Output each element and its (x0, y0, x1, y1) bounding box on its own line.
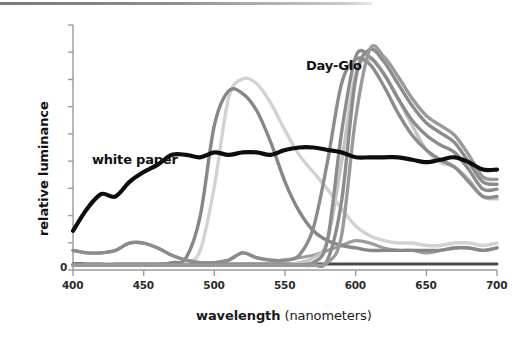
axis-lines (73, 25, 497, 270)
annotation-white-paper: white paper (92, 152, 178, 167)
x-tick-label: 500 (203, 279, 224, 291)
curve-day-glo-green-light (73, 78, 497, 265)
chart-figure: relative luminance 0 Day-Glo white paper… (0, 0, 525, 341)
x-tick-label: 600 (345, 279, 366, 291)
y-axis-ticks (68, 25, 73, 270)
y-axis-zero-label: 0 (60, 261, 67, 273)
x-tick-label: 650 (415, 279, 436, 291)
x-axis-ticks (73, 270, 497, 276)
x-axis-title-unit: (nanometers) (284, 308, 371, 323)
x-axis-title-bold: wavelength (196, 308, 280, 323)
x-tick-label: 550 (274, 279, 295, 291)
annotation-day-glo: Day-Glo (306, 58, 362, 73)
x-tick-label: 700 (486, 279, 507, 291)
x-tick-label: 400 (62, 279, 83, 291)
x-axis-title: wavelength (nanometers) (196, 308, 372, 323)
y-axis-title: relative luminance (36, 101, 51, 236)
x-tick-label: 450 (133, 279, 154, 291)
